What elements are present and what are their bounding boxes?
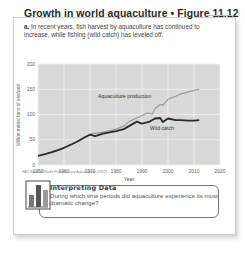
x-tick-label: 2020: [214, 168, 225, 174]
y-axis-ticks: 050100150200: [27, 61, 36, 168]
x-axis-label: Year: [124, 176, 135, 182]
wild-catch-label: Wild catch: [150, 125, 174, 131]
y-tick-label: 50: [29, 136, 35, 142]
x-tick-label: 2000: [162, 168, 173, 174]
y-tick-label: 0: [32, 162, 35, 168]
y-tick-label: 200: [27, 61, 36, 67]
bar-chart-icon: [25, 180, 51, 210]
aquaculture-label: Aquaculture production: [98, 93, 151, 99]
x-tick-label: 2010: [188, 168, 199, 174]
x-tick-label: 1980: [110, 168, 121, 174]
y-tick-label: 150: [27, 86, 36, 92]
interpreting-data-heading: Interpreting Data: [50, 184, 117, 192]
y-tick-label: 100: [27, 111, 36, 117]
source-note: FAO State of World Fisheries and Aquacul…: [22, 170, 108, 174]
interpreting-data-question: During which time periods did aquacultur…: [50, 192, 220, 207]
y-axis-label: Million metric tons of seafood: [16, 84, 21, 146]
x-tick-label: 1990: [136, 168, 147, 174]
